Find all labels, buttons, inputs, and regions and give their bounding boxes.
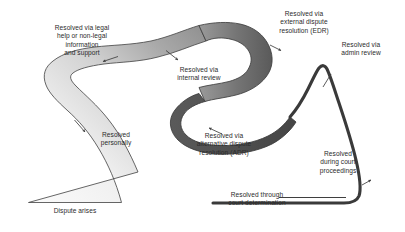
arrow-court-proceedings — [362, 180, 371, 185]
label-dispute-arises: Dispute arises — [28, 207, 122, 215]
label-legal-help: Resolved via legal help or non-legal inf… — [36, 24, 128, 58]
arrow-admin-review — [323, 74, 331, 87]
label-adr: Resolved via alternative dispute resolut… — [168, 132, 280, 157]
arrow-edr — [270, 45, 281, 51]
label-court-proceedings: Resolved during court proceedings — [305, 150, 371, 175]
label-admin-review: Resolved via admin review — [322, 41, 400, 58]
label-internal-review: Resolved via internal review — [159, 66, 239, 83]
label-court-determination: Resolved through court determination — [197, 191, 317, 208]
dispute-resolution-diagram: Resolved via legal help or non-legal inf… — [0, 0, 405, 232]
label-personally: Resolved personally — [82, 131, 150, 148]
label-edr: Resolved via external dispute resolution… — [256, 10, 352, 35]
